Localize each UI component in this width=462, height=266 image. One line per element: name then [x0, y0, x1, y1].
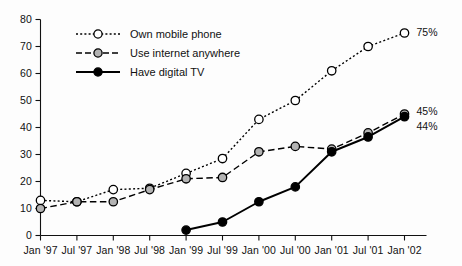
data-point-marker — [73, 198, 81, 206]
y-axis-tick-label: 40 — [0, 121, 32, 133]
legend-item-have-digital-tv: Have digital TV — [76, 64, 240, 80]
y-axis-tick-label: 30 — [0, 148, 32, 160]
data-point-marker — [218, 218, 226, 226]
legend-label-own-mobile-phone: Own mobile phone — [130, 28, 222, 40]
data-point-marker — [109, 198, 117, 206]
data-point-marker — [146, 185, 154, 193]
legend-key-own-mobile-phone — [76, 27, 120, 41]
data-point-marker — [255, 148, 263, 156]
legend-key-use-internet-anywhere — [76, 46, 120, 60]
data-point-marker — [36, 196, 44, 204]
data-point-marker — [109, 185, 117, 193]
data-point-marker — [328, 67, 336, 75]
data-point-marker — [182, 226, 190, 234]
data-point-marker — [400, 113, 408, 121]
x-axis-tick-label: Jan '02 — [379, 244, 431, 256]
data-point-marker — [182, 175, 190, 183]
data-point-marker — [36, 204, 44, 212]
series-end-label: 44% — [417, 120, 438, 132]
y-axis-tick-label: 50 — [0, 94, 32, 106]
data-point-marker — [400, 29, 408, 37]
data-point-marker — [291, 183, 299, 191]
y-axis-tick-label: 70 — [0, 40, 32, 52]
legend-item-own-mobile-phone: Own mobile phone — [76, 26, 240, 42]
data-point-marker — [255, 115, 263, 123]
legend-label-have-digital-tv: Have digital TV — [130, 66, 204, 78]
legend-item-use-internet-anywhere: Use internet anywhere — [76, 45, 240, 61]
data-point-marker — [328, 148, 336, 156]
data-point-marker — [364, 133, 372, 141]
data-point-marker — [291, 96, 299, 104]
y-axis-tick-label: 10 — [0, 202, 32, 214]
data-point-marker — [291, 142, 299, 150]
series-end-label: 45% — [417, 105, 438, 117]
chart-container: 01020304050607080 Jan '97Jul '97Jan '98J… — [0, 0, 462, 266]
y-axis-tick-label: 80 — [0, 13, 32, 25]
chart-legend: Own mobile phone Use internet anywhere H… — [76, 26, 240, 83]
legend-label-use-internet-anywhere: Use internet anywhere — [130, 47, 240, 59]
y-axis-tick-label: 0 — [0, 229, 32, 241]
data-point-marker — [255, 198, 263, 206]
y-axis-tick-label: 60 — [0, 67, 32, 79]
data-point-marker — [364, 42, 372, 50]
series-end-label: 75% — [417, 26, 438, 38]
data-point-marker — [218, 154, 226, 162]
data-point-marker — [218, 173, 226, 181]
y-axis-tick-label: 20 — [0, 175, 32, 187]
legend-key-have-digital-tv — [76, 65, 120, 79]
